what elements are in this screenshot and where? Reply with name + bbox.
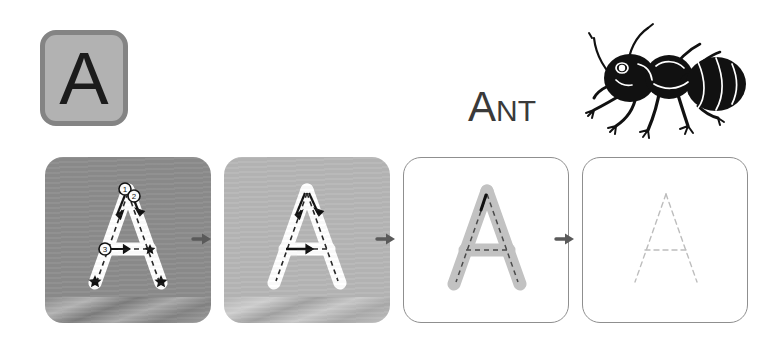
stroke-number-3: 3 (99, 243, 111, 255)
svg-text:2: 2 (132, 192, 137, 201)
step-arrow-3-to-4 (553, 227, 577, 251)
word-label-initial: A (468, 83, 496, 130)
practice-box-step-3[interactable] (403, 157, 569, 323)
letter-tracing-worksheet: A ANT (0, 0, 758, 346)
stroke-number-2: 2 (128, 190, 140, 202)
letter-tile-glyph: A (59, 42, 108, 116)
practice-box-step-2[interactable] (224, 157, 390, 323)
practice-box-step-1[interactable]: 1 2 3 (45, 157, 211, 323)
word-label: ANT (468, 86, 536, 128)
step-arrow-2-to-3 (374, 227, 398, 251)
practice-box-step-4[interactable] (582, 157, 748, 323)
ant-illustration (572, 22, 748, 142)
trace-letter-step-3 (404, 158, 569, 323)
trace-letter-step-4 (583, 158, 748, 323)
letter-tile: A (40, 30, 128, 126)
word-label-rest: NT (496, 94, 536, 127)
trace-letter-step-1: 1 2 3 (45, 157, 211, 323)
practice-strip: 1 2 3 (0, 155, 758, 330)
svg-text:1: 1 (123, 185, 128, 194)
step-arrow-1-to-2 (190, 227, 214, 251)
trace-letter-step-2 (224, 157, 390, 323)
svg-text:3: 3 (103, 245, 108, 254)
